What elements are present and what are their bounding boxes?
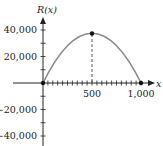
point-origin: [41, 81, 45, 85]
revenue-chart: R(x) x 500 1,000 40,000 20,000 −20,000 −…: [0, 0, 163, 146]
ytick-label-40000: 40,000: [4, 24, 37, 35]
ytick-label-neg40000: −40,000: [0, 130, 37, 141]
point-vertex: [90, 31, 94, 35]
ytick-label-20000: 20,000: [4, 51, 37, 62]
x-axis-arrow-icon: [148, 80, 155, 86]
x-axis-label: x: [156, 78, 162, 89]
axes: [13, 17, 155, 146]
y-axis-label: R(x): [36, 4, 57, 15]
xtick-label-500: 500: [83, 88, 101, 99]
ytick-label-neg20000: −20,000: [0, 104, 37, 115]
xtick-label-1000: 1,000: [127, 88, 154, 99]
point-root: [139, 81, 143, 85]
y-axis-arrow-icon: [40, 17, 46, 24]
